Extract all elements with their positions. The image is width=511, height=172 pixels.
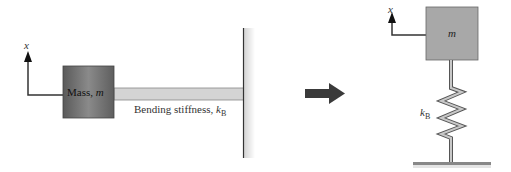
ground [413,162,491,168]
spring-stiffness-subscript: B [425,112,430,121]
left-x-axis-arrow [24,51,63,95]
left-x-axis-label: x [24,39,29,51]
beam-label: Bending stiffness, kB [134,103,226,118]
beam-label-text: Bending stiffness, [134,103,216,115]
spring-label: kB [420,106,430,121]
right-x-axis-arrow [388,12,426,35]
stiffness-subscript: B [221,109,226,118]
wall [243,28,255,158]
left-mass-label: Mass, m [67,86,104,98]
transform-arrow-icon [305,83,345,104]
mass-symbol: m [96,86,104,98]
beam [114,88,244,100]
right-mass-symbol: m [448,27,456,39]
spring [441,60,462,163]
mass-label-text: Mass, [67,86,96,98]
right-x-axis-label: x [388,3,393,15]
